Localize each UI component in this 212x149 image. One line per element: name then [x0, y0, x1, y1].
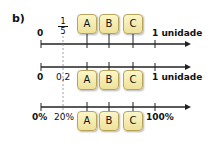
- box-c: C: [123, 14, 143, 34]
- box-b: B: [99, 111, 119, 131]
- line2-mark: 0,2: [56, 72, 70, 82]
- number-line-diagram: b) 0 1 5 1 unidade A B C 0 0,2 1 unidade…: [0, 0, 212, 149]
- line3-end: 100%: [146, 112, 174, 122]
- box-a: A: [77, 14, 97, 34]
- box-c: C: [123, 111, 143, 131]
- line3-start: 0%: [32, 112, 47, 122]
- line1-start: 0: [37, 28, 43, 38]
- box-a: A: [77, 111, 97, 131]
- line2-start: 0: [37, 72, 43, 82]
- line3-mark: 20%: [54, 112, 74, 122]
- part-label: b): [12, 12, 25, 25]
- box-b: B: [99, 70, 119, 90]
- box-c: C: [123, 70, 143, 90]
- line2-end: 1 unidade: [152, 72, 202, 82]
- box-a: A: [77, 70, 97, 90]
- fraction-num: 1: [58, 18, 68, 27]
- line1-end: 1 unidade: [152, 28, 202, 38]
- fraction-den: 5: [58, 28, 68, 36]
- box-b: B: [99, 14, 119, 34]
